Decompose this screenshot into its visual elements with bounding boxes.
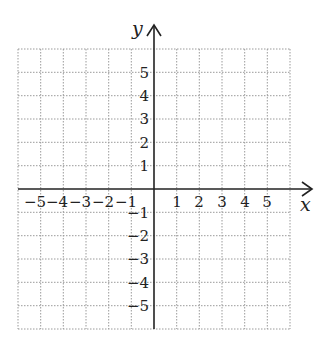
svg-text:−5: −5 — [24, 193, 46, 211]
svg-text:5: 5 — [139, 64, 149, 82]
axes — [18, 25, 312, 329]
svg-text:4: 4 — [139, 87, 149, 105]
svg-text:−1: −1 — [127, 204, 149, 222]
svg-text:−3: −3 — [69, 193, 91, 211]
x-axis-label: x — [300, 193, 311, 215]
svg-text:5: 5 — [262, 193, 272, 211]
svg-text:2: 2 — [194, 193, 204, 211]
svg-text:−2: −2 — [127, 227, 149, 245]
svg-text:1: 1 — [172, 193, 182, 211]
svg-text:3: 3 — [139, 110, 149, 128]
y-axis-label: y — [131, 17, 143, 39]
svg-text:−2: −2 — [92, 193, 114, 211]
coordinate-plane: x y −5 −4 −3 −2 −1 1 2 3 4 5 5 4 3 2 1 −… — [0, 0, 334, 353]
svg-text:3: 3 — [217, 193, 227, 211]
svg-text:1: 1 — [139, 157, 149, 175]
svg-text:−5: −5 — [127, 297, 149, 315]
svg-text:−3: −3 — [127, 250, 149, 268]
svg-text:4: 4 — [240, 193, 250, 211]
svg-text:2: 2 — [139, 134, 149, 152]
svg-text:−4: −4 — [127, 274, 149, 292]
svg-text:−4: −4 — [46, 193, 68, 211]
